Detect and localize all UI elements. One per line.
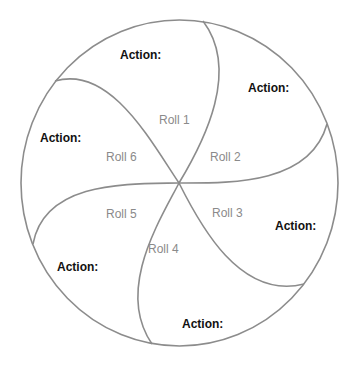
action-label-roll-5: Action:: [57, 261, 98, 273]
roll-label-3: Roll 3: [212, 207, 243, 219]
roll-label-6: Roll 6: [106, 151, 137, 163]
action-label-roll-2: Action:: [248, 82, 289, 94]
roll-wheel-diagram: Action: Action: Action: Action: Action: …: [0, 0, 355, 367]
divider-curve-3: [179, 183, 304, 286]
wheel-graphic: [0, 0, 355, 367]
roll-label-5: Roll 5: [106, 208, 137, 220]
divider-curve-2: [179, 124, 327, 183]
action-label-roll-3: Action:: [275, 220, 316, 232]
roll-label-4: Roll 4: [148, 243, 179, 255]
roll-label-2: Roll 2: [210, 151, 241, 163]
roll-label-1: Roll 1: [159, 114, 190, 126]
action-label-roll-1: Action:: [120, 49, 161, 61]
divider-curve-4: [138, 183, 179, 344]
action-label-roll-6: Action:: [40, 132, 81, 144]
action-label-roll-4: Action:: [182, 318, 223, 330]
